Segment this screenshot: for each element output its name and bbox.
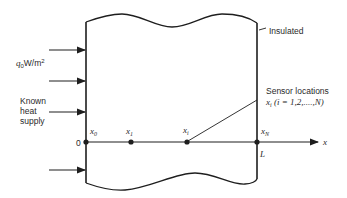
point-label-xi: xi <box>182 125 189 136</box>
insulated-label: Insulated <box>269 26 304 36</box>
point-label-x1: x1 <box>125 126 133 137</box>
slab-top-wavy-edge <box>86 14 257 27</box>
insulated-leader-line <box>259 28 266 30</box>
known-label-line3: supply <box>20 116 45 126</box>
sensor-locations-formula: xi (i = 1,2,....,N) <box>265 97 324 108</box>
point-label-xN: xN <box>260 126 270 137</box>
heat-flux-label: q0W/m2 <box>16 58 45 69</box>
slab <box>86 14 257 190</box>
point-label-x0: x0 <box>89 126 97 137</box>
flux-unit: W/m <box>24 58 41 68</box>
sensor-point-xN <box>254 139 259 144</box>
known-label-line2: heat <box>20 106 37 116</box>
known-label-line1: Known <box>20 96 46 106</box>
sensor-point-x1 <box>128 139 133 144</box>
origin-label: 0 <box>76 138 81 148</box>
heat-flux-arrows <box>49 50 85 170</box>
length-label-L: L <box>259 149 265 159</box>
x-axis-label: x <box>322 137 327 147</box>
sensor-point-x0 <box>83 139 88 144</box>
sensor-locations-title: Sensor locations <box>266 86 329 96</box>
unit-exponent: 2 <box>41 58 45 64</box>
heat-conduction-diagram: q0W/m2 Known heat supply Insulated x x0 … <box>0 0 347 198</box>
slab-bottom-wavy-edge <box>86 173 257 190</box>
sensor-leader-line <box>188 100 257 141</box>
